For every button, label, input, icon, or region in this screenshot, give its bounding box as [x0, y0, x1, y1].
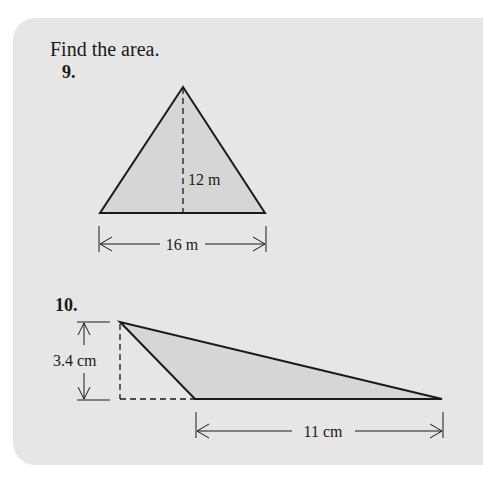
base-label-10: 11 cm — [304, 423, 344, 440]
base-label-9: 16 m — [166, 236, 199, 253]
height-label-10: 3.4 cm — [53, 352, 97, 369]
triangle-10: 3.4 cm 11 cm — [53, 322, 443, 440]
triangle-9: 12 m 16 m — [99, 87, 266, 253]
height-label-9: 12 m — [188, 171, 221, 188]
